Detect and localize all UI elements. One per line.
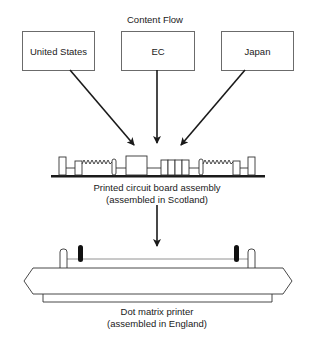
printer-body [24, 268, 292, 294]
diagram-graphics [0, 0, 310, 337]
arrow-us-to-pcb [70, 70, 134, 145]
printer-icon [24, 245, 292, 302]
printer-base [43, 294, 272, 302]
pcb-label-line1: Printed circuit board assembly [0, 182, 310, 194]
pcb-label: Printed circuit board assembly (assemble… [0, 182, 310, 206]
content-flow-diagram: Content Flow United States EC Japan [0, 0, 310, 337]
printer-post-right [248, 249, 255, 268]
printer-roller-right [234, 245, 239, 262]
printer-label-line1: Dot matrix printer [0, 306, 310, 318]
printer-roller-left [78, 245, 83, 262]
pcb-assembly-icon [51, 156, 265, 178]
printer-label: Dot matrix printer (assembled in England… [0, 306, 310, 330]
printer-label-line2: (assembled in England) [0, 318, 310, 330]
printer-post-left [60, 249, 67, 268]
arrow-japan-to-pcb [181, 70, 245, 145]
pcb-label-line2: (assembled in Scotland) [0, 194, 310, 206]
